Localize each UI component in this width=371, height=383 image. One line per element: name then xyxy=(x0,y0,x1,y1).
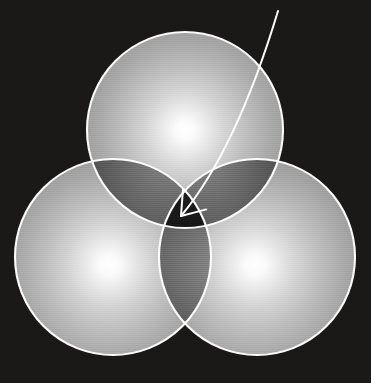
spheres-diagram: Three overlapping translucent spheres wi… xyxy=(0,0,371,383)
figure-canvas: Three overlapping translucent spheres wi… xyxy=(0,0,371,383)
